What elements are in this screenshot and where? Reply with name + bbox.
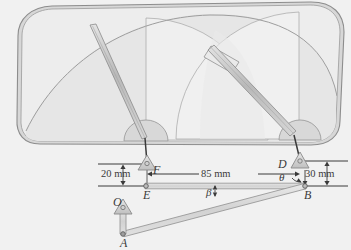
figure-root: F E D B O A θ β 20 mm 85 mm 30 mm xyxy=(0,0,351,250)
label-angle-beta: β xyxy=(206,187,211,198)
label-point-B: B xyxy=(304,189,311,201)
mechanism-diagram xyxy=(0,0,351,250)
label-point-F: F xyxy=(153,164,160,176)
dimension-label-30mm: 30 mm xyxy=(305,169,334,180)
label-point-O: O xyxy=(113,196,122,208)
link-connecting-rod-EB xyxy=(145,183,306,189)
dimension-label-85mm: 85 mm xyxy=(201,169,230,180)
label-point-A: A xyxy=(120,237,127,249)
label-point-D: D xyxy=(278,158,287,170)
label-angle-theta: θ xyxy=(279,172,284,183)
dimension-label-20mm: 20 mm xyxy=(101,169,130,180)
label-point-E: E xyxy=(143,189,150,201)
bearing-D xyxy=(291,152,309,168)
